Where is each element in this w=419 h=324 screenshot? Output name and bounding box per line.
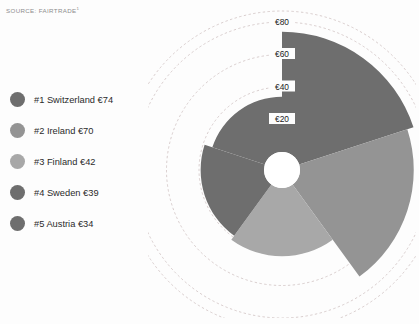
legend-swatch-icon [10,185,25,200]
radial-tick-label: €40 [275,82,289,92]
legend-swatch-icon [10,123,25,138]
legend-item-label: #3 Finland €42 [34,157,96,167]
legend-item-finland[interactable]: #3 Finland €42 [10,146,145,177]
legend-item-label: #2 Ireland €70 [34,126,93,136]
legend-swatch-icon [10,154,25,169]
legend-item-sweden[interactable]: #4 Sweden €39 [10,177,145,208]
chart-wedges [201,32,414,277]
chart-card: SOURCE: FAIRTRADE1 #1 Switzerland €74 #2… [0,0,419,324]
legend-swatch-icon [10,92,25,107]
source-text: SOURCE: FAIRTRADE [6,7,76,14]
legend-item-label: #1 Switzerland €74 [34,95,113,105]
radial-tick-label: €20 [275,114,289,124]
legend-item-label: #5 Austria €34 [34,219,93,229]
radial-tick-label: €60 [275,49,289,59]
legend-swatch-icon [10,216,25,231]
source-superscript: 1 [76,6,79,11]
legend-item-austria[interactable]: #5 Austria €34 [10,208,145,239]
source-label: SOURCE: FAIRTRADE1 [6,6,79,14]
legend-item-ireland[interactable]: #2 Ireland €70 [10,115,145,146]
legend-item-switzerland[interactable]: #1 Switzerland €74 [10,84,145,115]
legend-item-label: #4 Sweden €39 [34,188,99,198]
radial-tick-label: €80 [275,17,289,27]
chart-center-hub [264,152,300,188]
polar-rose-chart: €20€40€60€80 [148,8,416,318]
chart-legend: #1 Switzerland €74 #2 Ireland €70 #3 Fin… [10,84,145,239]
